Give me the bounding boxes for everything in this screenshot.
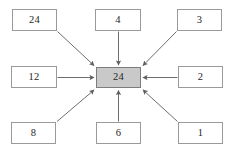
arrow-top-left-to-center: [58, 32, 95, 66]
arrow-top-right-to-center: [143, 32, 177, 66]
node-label-center: 24: [113, 72, 124, 83]
diagram-canvas: 244312286124: [0, 0, 233, 155]
node-middle-right: 2: [178, 66, 223, 88]
node-label-bottom-center: 6: [116, 127, 121, 138]
node-label-top-right: 3: [197, 14, 202, 25]
node-label-middle-right: 2: [198, 71, 203, 82]
node-top-right: 3: [177, 9, 222, 31]
node-label-top-center: 4: [115, 14, 120, 25]
node-middle-left: 12: [11, 66, 57, 88]
node-label-top-left: 24: [29, 14, 40, 25]
arrow-bottom-right-to-center: [143, 90, 178, 122]
node-label-middle-left: 12: [29, 71, 40, 82]
node-bottom-left: 8: [11, 122, 56, 144]
node-top-center: 4: [95, 9, 141, 31]
node-label-bottom-right: 1: [198, 127, 203, 138]
node-center: 24: [96, 67, 141, 88]
arrow-bottom-left-to-center: [57, 90, 94, 122]
node-label-bottom-left: 8: [31, 127, 36, 138]
node-bottom-right: 1: [178, 122, 223, 144]
node-top-left: 24: [12, 9, 57, 31]
node-bottom-center: 6: [96, 122, 141, 144]
